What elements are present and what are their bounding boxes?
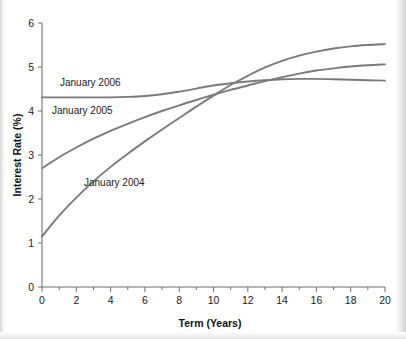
series-label-january-2004: January 2004 xyxy=(84,177,145,188)
y-axis-title: Interest Rate (%) xyxy=(11,114,23,197)
x-tick-label: 12 xyxy=(242,294,254,306)
x-tick-label: 14 xyxy=(276,294,288,306)
x-tick-label: 8 xyxy=(176,294,182,306)
y-tick-label: 1 xyxy=(28,237,34,249)
x-tick-label: 16 xyxy=(311,294,323,306)
series-annotations: January 2006January 2005January 2004 xyxy=(52,77,145,188)
x-axis-title: Term (Years) xyxy=(179,317,242,329)
x-axis: 02468101214161820 xyxy=(39,287,391,306)
y-tick-label: 3 xyxy=(28,149,34,161)
x-tick-label: 6 xyxy=(142,294,148,306)
series-label-january-2005: January 2005 xyxy=(52,105,113,116)
y-tick-label: 0 xyxy=(28,281,34,293)
y-tick-label: 6 xyxy=(28,17,34,29)
x-tick-label: 0 xyxy=(39,294,45,306)
chart-figure: 0123456 02468101214161820 January 2006Ja… xyxy=(0,0,406,339)
y-tick-label: 2 xyxy=(28,193,34,205)
x-tick-label: 2 xyxy=(73,294,79,306)
x-tick-label: 18 xyxy=(345,294,357,306)
y-axis: 0123456 xyxy=(28,17,42,293)
series-line-january-2004 xyxy=(42,44,385,236)
x-tick-label: 10 xyxy=(208,294,220,306)
y-tick-label: 5 xyxy=(28,61,34,73)
chart-series-group xyxy=(42,44,385,236)
series-label-january-2006: January 2006 xyxy=(60,77,121,88)
y-tick-label: 4 xyxy=(28,105,34,117)
x-tick-label: 4 xyxy=(108,294,114,306)
line-chart-plot: 0123456 02468101214161820 January 2006Ja… xyxy=(0,0,406,339)
x-tick-label: 20 xyxy=(379,294,391,306)
